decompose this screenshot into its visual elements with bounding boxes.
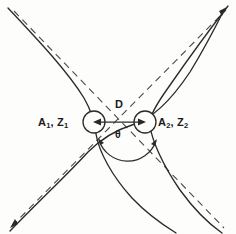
nucleus-left-label: A1, Z1 [38,117,68,128]
nucleus-right-z-subscript: 2 [184,121,188,130]
arrowhead-top-right-icon [219,7,227,16]
nucleus-right-separator: , Z [171,116,184,128]
nucleus-right-a-subscript: 2 [166,121,170,130]
trajectory-upper-right-branch [150,6,228,120]
angle-label: θ [115,129,121,140]
angle-theta-arc [99,140,156,161]
nucleus-right-label: A2, Z2 [158,117,188,128]
nucleus-left-z-subscript: 1 [64,121,68,130]
scattering-diagram-figure: A1, Z1 A2, Z2 D θ [0,0,236,234]
nucleus-right-a-symbol: A [158,116,166,128]
distance-label: D [115,99,123,110]
scattering-diagram-svg [0,0,236,234]
nucleus-left-a-subscript: 1 [46,121,50,130]
nucleus-left-a-symbol: A [38,116,46,128]
nucleus-left-separator: , Z [51,116,64,128]
trajectory-lower-right-branch [150,126,222,233]
